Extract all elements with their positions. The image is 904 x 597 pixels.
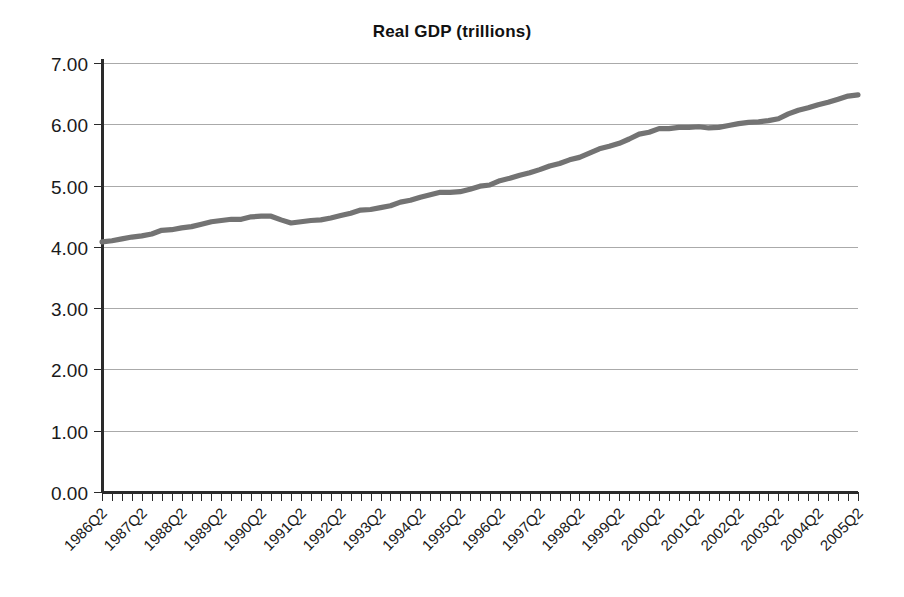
x-axis-tick-label: 1999Q2 [578,504,628,554]
x-axis-tick-label: 1997Q2 [498,504,548,554]
x-axis-labels-group: 1986Q21987Q21988Q21989Q21990Q21991Q21992… [60,504,866,554]
x-axis-tick-label: 1991Q2 [259,504,309,554]
y-axis-tick-label: 7.00 [51,54,88,75]
x-axis-tick-label: 1994Q2 [379,504,429,554]
y-axis-labels-group: 0.001.002.003.004.005.006.007.00 [51,54,88,504]
x-axis-tick-label: 1987Q2 [100,504,150,554]
y-axis-tick-label: 6.00 [51,115,88,136]
data-series-group [102,95,858,242]
x-axis-tick-label: 1990Q2 [220,504,270,554]
data-line-real-gdp [102,95,858,242]
x-axis-tick-label: 1996Q2 [458,504,508,554]
y-axis-ticks-group [94,64,102,493]
x-axis-tick-label: 1988Q2 [140,504,190,554]
x-axis-tick-label: 2004Q2 [777,504,827,554]
x-axis-tick-label: 2003Q2 [737,504,787,554]
chart-container: Real GDP (trillions) 0.001.002.003.004.0… [0,0,904,597]
x-axis-tick-label: 2000Q2 [617,504,667,554]
x-axis-tick-label: 2002Q2 [697,504,747,554]
y-axis-tick-label: 3.00 [51,299,88,320]
x-axis-tick-label: 1993Q2 [339,504,389,554]
y-axis-tick-label: 4.00 [51,238,88,259]
y-axis-tick-label: 2.00 [51,360,88,381]
x-axis-tick-label: 1986Q2 [60,504,110,554]
chart-plot-area: 0.001.002.003.004.005.006.007.00 1986Q21… [0,0,904,597]
y-axis-tick-label: 0.00 [51,483,88,504]
x-axis-tick-label: 1995Q2 [418,504,468,554]
x-axis-tick-label: 1989Q2 [180,504,230,554]
x-axis-tick-label: 2005Q2 [816,504,866,554]
y-axis-tick-label: 5.00 [51,177,88,198]
y-axis-tick-label: 1.00 [51,422,88,443]
x-axis-tick-label: 1998Q2 [538,504,588,554]
x-axis-tick-label: 1992Q2 [299,504,349,554]
gridlines-group [102,64,858,432]
x-axis-tick-label: 2001Q2 [657,504,707,554]
